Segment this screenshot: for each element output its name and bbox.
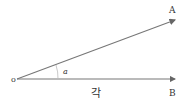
angle-label: a [63,67,68,76]
angle-arc [56,65,58,79]
ray-oa [17,20,175,79]
angle-diagram: o a A B 각 [0,0,187,108]
caption-label: 각 [91,87,101,100]
point-a-label: A [168,5,176,15]
origin-label: o [11,75,16,84]
point-b-label: B [169,88,176,98]
